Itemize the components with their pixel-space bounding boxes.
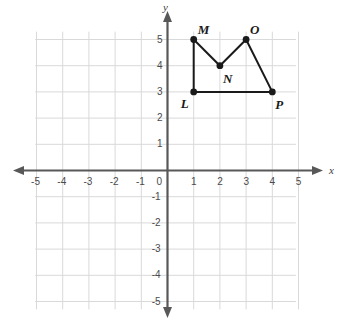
vertex-label-P: P (275, 98, 283, 111)
y-tick-label-1: 1 (157, 139, 163, 149)
y-tick-label--5: -5 (152, 297, 161, 307)
x-axis-arrow-left (13, 166, 24, 175)
x-axis-arrow-right (312, 166, 323, 175)
y-tick-label-4: 4 (157, 61, 163, 71)
x-tick-label-5: 5 (296, 177, 302, 187)
y-tick-label--1: -1 (152, 192, 161, 202)
vertex-label-N: N (223, 72, 232, 85)
graph-canvas (0, 0, 344, 322)
y-axis-label: y (163, 2, 168, 13)
x-axis-label: x (329, 165, 334, 176)
y-axis-arrow-down (163, 307, 172, 318)
vertex-label-O: O (250, 23, 259, 36)
x-tick-label--2: -2 (110, 177, 119, 187)
x-tick-label--1: -1 (136, 177, 145, 187)
y-tick-label-2: 2 (157, 113, 163, 123)
x-tick-label-4: 4 (270, 177, 276, 187)
x-tick-label-1: 1 (191, 177, 197, 187)
vertex-point-L (190, 89, 197, 96)
vertex-point-O (243, 36, 250, 43)
vertex-label-M: M (198, 23, 210, 36)
vertex-point-P (269, 89, 276, 96)
x-tick-label-3: 3 (243, 177, 249, 187)
x-tick-label--3: -3 (84, 177, 93, 187)
vertex-point-M (190, 36, 197, 43)
y-tick-label--2: -2 (152, 218, 161, 228)
y-tick-label-5: 5 (157, 35, 163, 45)
x-tick-label-2: 2 (217, 177, 223, 187)
axes (13, 11, 323, 318)
origin-tick-label: 0 (157, 177, 163, 187)
y-tick-label--4: -4 (152, 270, 161, 280)
x-tick-label--5: -5 (31, 177, 40, 187)
y-tick-label--3: -3 (152, 244, 161, 254)
y-tick-label-3: 3 (157, 87, 163, 97)
polygon-edge-MN (194, 40, 220, 66)
polygon-edge-NO (220, 40, 246, 66)
x-tick-label--4: -4 (57, 177, 66, 187)
vertex-label-L: L (181, 97, 189, 110)
coordinate-plane-figure: -5-4-3-2-101234554321-1-2-3-4-5LMNOP x y (0, 0, 344, 322)
vertex-point-N (217, 62, 224, 69)
